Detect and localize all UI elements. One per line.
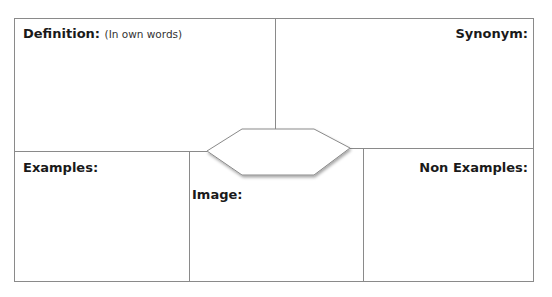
definition-label: Definition: (In own words) [23, 26, 182, 41]
image-label: Image: [192, 187, 242, 202]
non-examples-label: Non Examples: [419, 160, 528, 175]
definition-note: (In own words) [105, 28, 183, 40]
synonym-area[interactable] [277, 44, 532, 147]
examples-label: Examples: [23, 160, 98, 175]
synonym-label: Synonym: [456, 26, 529, 41]
definition-heading: Definition: [23, 26, 100, 41]
non-examples-area[interactable] [365, 178, 532, 280]
image-area[interactable] [191, 205, 362, 280]
definition-area[interactable] [16, 44, 274, 150]
center-term-text[interactable] [244, 140, 312, 164]
examples-area[interactable] [16, 178, 188, 280]
